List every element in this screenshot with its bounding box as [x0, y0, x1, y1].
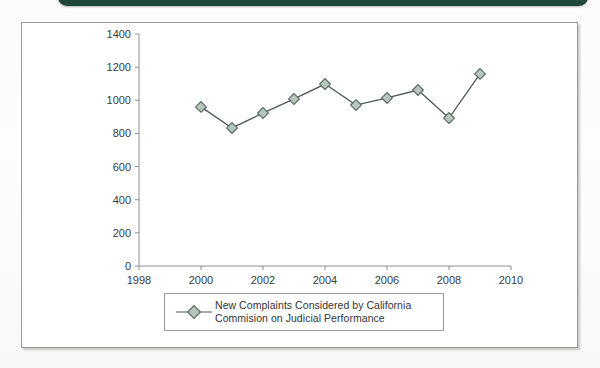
- data-point-marker: [320, 79, 331, 90]
- y-tick-label: 1400: [107, 28, 131, 40]
- y-tick-label: 0: [125, 260, 131, 272]
- y-tick-label: 600: [113, 161, 131, 173]
- data-point-marker: [475, 69, 486, 80]
- y-tick-label: 1200: [107, 61, 131, 73]
- x-tick-label: 2006: [375, 274, 399, 286]
- data-point-marker: [258, 108, 269, 119]
- header-green-band: [58, 0, 588, 6]
- y-tick-label: 400: [113, 194, 131, 206]
- data-series-line: [201, 74, 480, 128]
- x-axis: 1998200020022004200620082010: [127, 266, 523, 286]
- data-point-marker: [351, 100, 362, 111]
- x-tick-label: 2010: [499, 274, 523, 286]
- chart-figure-frame: 0200400600800100012001400 19982000200220…: [21, 22, 578, 348]
- legend-label-line1: New Complaints Considered by California: [215, 299, 411, 312]
- data-point-marker: [289, 94, 300, 105]
- data-point-marker: [227, 123, 238, 134]
- chart-legend: New Complaints Considered by California …: [164, 293, 444, 331]
- y-tick-label: 1000: [107, 94, 131, 106]
- x-tick-label: 2002: [251, 274, 275, 286]
- data-point-markers: [196, 69, 486, 134]
- legend-label: New Complaints Considered by California …: [215, 299, 411, 325]
- legend-label-line2: Commision on Judicial Performance: [215, 312, 411, 325]
- x-tick-label: 2004: [313, 274, 337, 286]
- x-tick-label: 2000: [189, 274, 213, 286]
- y-tick-label: 200: [113, 227, 131, 239]
- y-tick-label: 800: [113, 127, 131, 139]
- legend-marker-swatch: [173, 302, 215, 322]
- y-axis: 0200400600800100012001400: [107, 28, 139, 272]
- x-tick-label: 1998: [127, 274, 151, 286]
- x-tick-label: 2008: [437, 274, 461, 286]
- data-point-marker: [382, 93, 393, 104]
- data-point-marker: [196, 102, 207, 113]
